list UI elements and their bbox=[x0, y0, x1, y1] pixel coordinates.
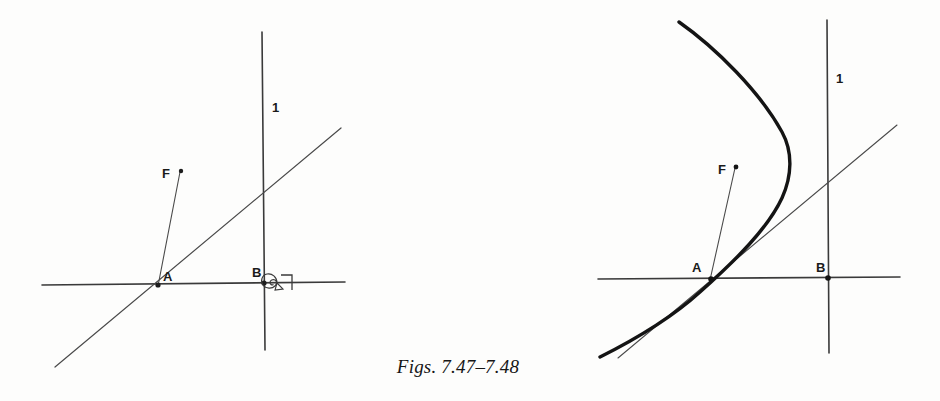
right-point-a-marker bbox=[708, 276, 714, 282]
right-label-line-l: 1 bbox=[836, 71, 843, 86]
figure-plate: A B F 1 A B F bbox=[0, 0, 940, 401]
right-parabola-curve bbox=[600, 22, 790, 357]
figures-canvas: A B F 1 A B F bbox=[0, 0, 940, 401]
left-label-line-l: 1 bbox=[272, 100, 279, 115]
right-horizontal-line bbox=[598, 277, 900, 279]
figure-right: A B F 1 bbox=[598, 20, 900, 358]
right-point-f-marker bbox=[734, 165, 739, 170]
left-label-b: B bbox=[252, 265, 261, 280]
figure-left: A B F 1 bbox=[42, 32, 345, 367]
figure-caption-text: Figs. 7.47–7.48 bbox=[397, 356, 519, 378]
right-label-a: A bbox=[692, 260, 702, 275]
left-label-f: F bbox=[162, 166, 170, 181]
right-point-b-marker bbox=[825, 275, 831, 281]
left-point-a-marker bbox=[155, 282, 160, 287]
figure-caption: Figs. 7.47–7.48 bbox=[0, 356, 940, 378]
left-vertical-line bbox=[262, 32, 265, 350]
left-point-f-marker bbox=[179, 169, 183, 173]
right-label-f: F bbox=[718, 162, 726, 177]
left-oblique-line bbox=[55, 128, 341, 367]
right-vertical-line bbox=[827, 20, 829, 353]
left-horizontal-line bbox=[42, 282, 345, 285]
right-label-b: B bbox=[816, 260, 825, 275]
left-label-a: A bbox=[163, 269, 173, 284]
